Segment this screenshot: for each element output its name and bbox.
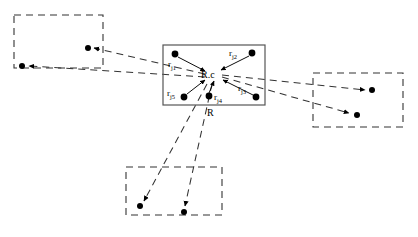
external-link-top-left-2 [94,48,205,74]
neighbour-region-box-top-left [14,15,103,68]
point-label-rj4: rj4 [214,93,222,102]
point-top-left-2 [85,45,91,51]
point-right-2 [354,112,360,118]
point-label-rj2: rj2 [229,49,237,58]
central-region-label: R [207,108,214,118]
point-label-rj1: rj1 [168,60,176,69]
external-link-right-2 [222,77,349,113]
point-bottom-2 [181,209,187,215]
point-label-rj5: rj5 [167,89,175,98]
point-rj3 [253,94,260,101]
point-top-left-1 [19,63,25,69]
point-rj4 [206,93,213,100]
neighbour-region-points [19,45,375,215]
neighbour-region-box-right [313,73,403,127]
point-rj2 [249,50,256,57]
point-bottom-1 [137,203,143,209]
external-link-bottom-1 [144,84,207,201]
point-rj1 [172,51,179,58]
internal-arrow-rj5 [187,80,205,94]
centroid-label: R.c [201,70,215,80]
point-rj5 [181,94,188,101]
diagram-root: R.c R rj1 rj2 rj3 rj4 rj5 [0,0,418,237]
external-link-bottom-2 [185,84,212,206]
point-label-rj3: rj3 [238,84,246,93]
point-right-1 [369,87,375,93]
diagram-canvas [0,0,418,237]
